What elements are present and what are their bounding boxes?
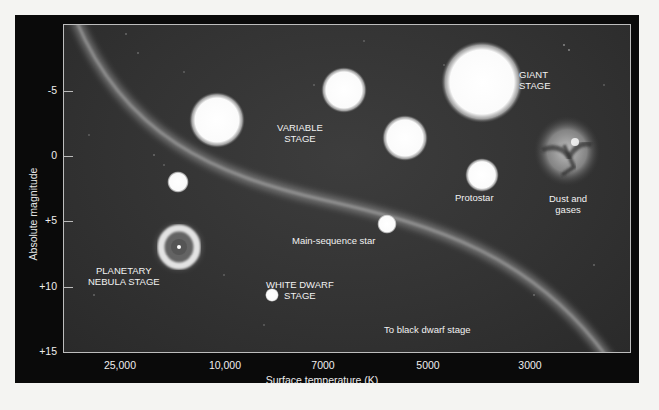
x-axis-label: Surface temperature (K) (266, 374, 379, 386)
label-line: STAGE (519, 80, 551, 91)
protostar-label: Protostar (455, 192, 494, 203)
y-tick-mark (63, 156, 73, 157)
x-tick: 25,000 (104, 359, 136, 371)
x-tick: 3000 (518, 359, 541, 371)
label-line: STAGE (266, 290, 334, 301)
variable-star-1 (189, 92, 245, 148)
label-line: GIANT (519, 69, 551, 80)
main-sequence-star (377, 214, 397, 234)
black-dwarf-label: To black dwarf stage (384, 324, 471, 335)
variable-star-3 (382, 115, 428, 161)
x-tick: 10,000 (209, 359, 241, 371)
dust-gases-label: Dust and gases (549, 193, 587, 215)
y-tick: +10 (27, 280, 57, 292)
planetary-nebula-label: PLANETARY NEBULA STAGE (88, 265, 160, 287)
label-line: WHITE DWARF (266, 279, 334, 290)
y-tick: -5 (27, 84, 57, 96)
label-line: gases (549, 204, 587, 215)
x-tick: 5000 (416, 359, 439, 371)
label-line: VARIABLE (277, 122, 323, 133)
y-tick: +15 (27, 345, 57, 357)
variable-stage-label: VARIABLE STAGE (277, 122, 323, 144)
y-tick-mark (63, 221, 73, 222)
label-line: NEBULA STAGE (88, 276, 160, 287)
y-tick-mark (63, 287, 73, 288)
y-tick: +5 (27, 214, 57, 226)
y-tick: 0 (27, 149, 57, 161)
white-dwarf-label: WHITE DWARF STAGE (266, 279, 334, 301)
giant-stage-label: GIANT STAGE (519, 69, 551, 91)
protostar (465, 158, 499, 192)
y-tick-mark (63, 91, 73, 92)
small-star (167, 171, 189, 193)
main-sequence-label: Main-sequence star (292, 235, 375, 246)
planetary-nebula (157, 225, 201, 269)
x-tick: 7000 (311, 359, 334, 371)
label-line: PLANETARY (88, 265, 160, 276)
label-line: STAGE (277, 133, 323, 144)
label-line: Dust and (549, 193, 587, 204)
giant-star (441, 41, 523, 123)
variable-star-2 (321, 67, 367, 113)
dust-gas-nebula (534, 116, 600, 186)
